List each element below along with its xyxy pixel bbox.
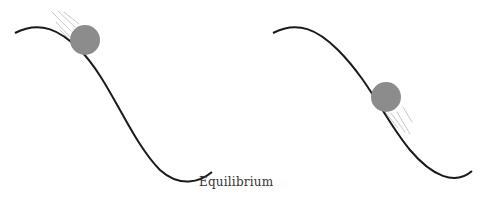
motion-line (403, 107, 412, 122)
left-slope-curve (15, 27, 212, 181)
right-panel (273, 27, 472, 178)
motion-line (64, 12, 79, 24)
left-ball (70, 25, 100, 55)
left-panel (15, 11, 212, 182)
equilibrium-label: Equilibrium (199, 175, 273, 189)
right-ball (371, 82, 401, 112)
